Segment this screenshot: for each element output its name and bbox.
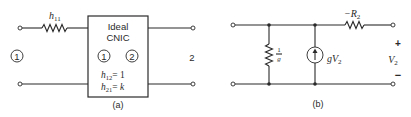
output-plus: +: [395, 38, 401, 49]
caption-a: (a): [113, 100, 124, 110]
resistor-h11-icon: [42, 25, 67, 32]
shunt-num: 1: [277, 46, 281, 54]
inner-port2-label: 2: [129, 51, 134, 62]
h12-param: h12= 1: [101, 70, 125, 81]
port2-label: 2: [189, 52, 194, 63]
terminal-icon: [18, 26, 22, 30]
terminal-icon: [18, 82, 22, 86]
neg-r2-label: −R2: [344, 8, 361, 21]
terminal-icon: [231, 82, 235, 86]
terminal-icon: [191, 26, 195, 30]
terminal-icon: [391, 23, 395, 27]
source-label: gV2: [327, 53, 342, 66]
shunt-den: g: [277, 55, 281, 63]
resistor-shunt-icon: [266, 44, 273, 66]
port1-label: 1: [14, 51, 19, 62]
cnic-title-line1: Ideal: [108, 21, 129, 32]
resistor-neg-r2-icon: [345, 22, 364, 29]
inner-port1-label: 1: [101, 51, 106, 62]
figure-b: 1 g gV2 −R2 + V2 − (b): [231, 8, 401, 109]
h11-label: h11: [49, 10, 61, 23]
terminal-icon: [191, 82, 195, 86]
circuit-diagram: h11 1 Ideal CNIC 1 2 h12= 1 h21= k 2 (a): [0, 0, 411, 117]
output-minus: −: [395, 69, 401, 81]
figure-a: h11 1 Ideal CNIC 1 2 h12= 1 h21= k 2 (a): [11, 10, 195, 110]
caption-b: (b): [313, 99, 324, 109]
terminal-icon: [391, 82, 395, 86]
terminal-icon: [231, 23, 235, 27]
output-voltage-label: V2: [388, 54, 398, 67]
cnic-title-line2: CNIC: [106, 32, 129, 43]
h21-param: h21= k: [101, 82, 125, 93]
